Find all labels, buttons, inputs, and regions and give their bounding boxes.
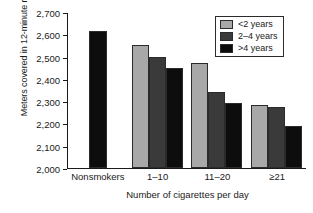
legend-item: >4 years [220, 44, 278, 53]
y-axis-tick-label: 2,400 [36, 74, 60, 85]
legend-item: 2–4 years [220, 32, 278, 41]
bar [208, 92, 225, 168]
legend-item: <2 years [220, 20, 278, 29]
y-axis-tick-label: 2,700 [36, 8, 60, 19]
x-axis-title: Number of cigarettes per day [68, 189, 307, 200]
bar [132, 45, 149, 168]
x-axis-line [67, 168, 306, 169]
x-axis-tick-label: 11–20 [188, 171, 248, 182]
y-axis-tick [63, 124, 67, 125]
x-axis-tick-label: 1–10 [128, 171, 188, 182]
legend-label: 2–4 years [238, 32, 278, 41]
x-axis-tick-label: ≥21 [247, 171, 307, 182]
y-axis-tick [63, 102, 67, 103]
x-axis-tick-labels: Nonsmokers1–1011–20≥21 [68, 171, 307, 182]
x-axis-tick-label: Nonsmokers [68, 171, 128, 182]
y-axis-tick [63, 58, 67, 59]
y-axis-tick-label: 2,600 [36, 30, 60, 41]
bar-group [128, 13, 188, 168]
bar [268, 107, 285, 168]
y-axis-tick [63, 35, 67, 36]
legend-swatch [220, 32, 233, 41]
legend-label: >4 years [238, 44, 273, 53]
bar [166, 68, 183, 168]
y-axis-tick [63, 147, 67, 148]
y-axis-tick-label: 2,000 [36, 164, 60, 175]
y-axis-tick [63, 13, 67, 14]
y-axis-tick-label: 2,500 [36, 52, 60, 63]
y-axis-tick-label: 2,100 [36, 141, 60, 152]
legend-label: <2 years [238, 20, 273, 29]
bar [285, 126, 302, 168]
bar [89, 31, 107, 168]
bar [225, 103, 242, 168]
bar [149, 57, 166, 168]
y-axis-tick [63, 169, 67, 170]
bar-group [68, 13, 128, 168]
legend-swatch [220, 44, 233, 53]
y-axis-title: Meters covered in 12-minute run [19, 0, 29, 133]
legend-swatch [220, 20, 233, 29]
bar-chart: Meters covered in 12-minute run 2,7002,6… [0, 0, 313, 213]
bar [251, 105, 268, 169]
bar [191, 63, 208, 168]
legend: <2 years2–4 years>4 years [215, 16, 284, 57]
y-axis-tick-label: 2,300 [36, 97, 60, 108]
y-axis-tick [63, 80, 67, 81]
y-axis-tick-label: 2,200 [36, 119, 60, 130]
